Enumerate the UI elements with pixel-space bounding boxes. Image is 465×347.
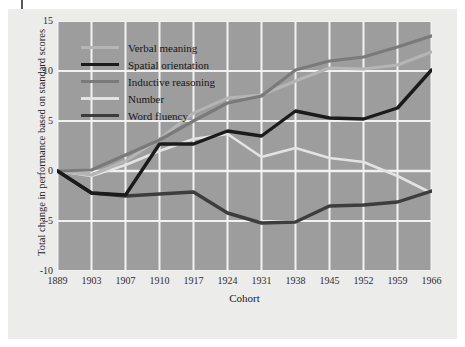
legend-item: Word fluency xyxy=(81,107,271,124)
legend-swatch xyxy=(81,63,119,66)
legend-label: Spatial orientation xyxy=(128,59,209,71)
legend-item: Inductive reasoning xyxy=(81,73,271,90)
x-tick-label: 1966 xyxy=(410,275,454,287)
series-line xyxy=(58,134,432,193)
x-axis-ticks: 1889190319071910191719241931193819451952… xyxy=(57,275,432,291)
legend-swatch xyxy=(81,114,119,117)
figure-root: Total change in performance based on sta… xyxy=(0,0,465,347)
legend-swatch xyxy=(81,97,119,100)
y-tick-label: 0 xyxy=(19,166,53,176)
legend-item: Verbal meaning xyxy=(81,39,271,56)
legend-item: Number xyxy=(81,90,271,107)
y-tick-label: 15 xyxy=(19,16,53,26)
figure-card: Total change in performance based on sta… xyxy=(8,9,457,339)
legend: Verbal meaningSpatial orientationInducti… xyxy=(81,39,271,124)
y-tick-label: -5 xyxy=(19,216,53,226)
legend-item: Spatial orientation xyxy=(81,56,271,73)
x-axis-title: Cohort xyxy=(57,292,432,304)
legend-label: Inductive reasoning xyxy=(128,76,215,88)
y-tick-label: 10 xyxy=(19,66,53,76)
y-axis-ticks: 151050-5-10 xyxy=(13,21,53,271)
legend-label: Number xyxy=(128,93,164,105)
series-line xyxy=(58,171,432,223)
y-tick-label: 5 xyxy=(19,116,53,126)
legend-label: Word fluency xyxy=(128,110,188,122)
plot-area: Verbal meaningSpatial orientationInducti… xyxy=(57,21,432,271)
legend-swatch xyxy=(81,46,119,49)
legend-label: Verbal meaning xyxy=(128,42,197,54)
legend-swatch xyxy=(81,80,119,83)
line-chart: Total change in performance based on sta… xyxy=(8,9,457,339)
